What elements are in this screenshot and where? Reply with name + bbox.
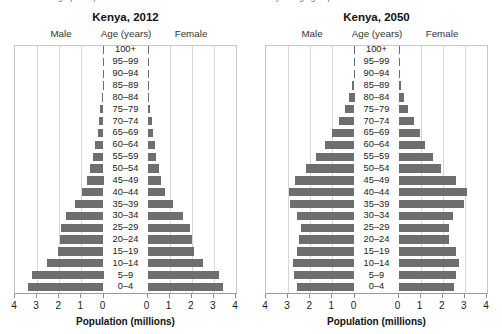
male-bar (290, 200, 355, 208)
female-bar (148, 129, 154, 137)
axis-tick-label: 1 (323, 300, 339, 311)
age-group-label: 30–34 (15, 210, 236, 221)
male-bar (349, 93, 355, 101)
x-axis-title: Population (millions) (0, 316, 251, 327)
female-bar (148, 58, 149, 66)
chart-panel-kenya-2012: Kenya, 2012 Male Age (years) Female 0–45… (0, 9, 251, 334)
pyramid-row: 10–14 (266, 257, 487, 269)
female-bar (399, 188, 467, 196)
female-bar (148, 200, 173, 208)
pyramid-row: 25–29 (266, 222, 487, 234)
female-bar (399, 247, 456, 255)
axis-tick-label: 3 (205, 300, 221, 311)
female-bar (399, 105, 409, 113)
male-bar (325, 141, 355, 149)
bar-rows: 0–45–910–1415–1920–2425–2930–3435–3940–4… (266, 46, 487, 293)
pyramid-row: 90–94 (15, 68, 236, 80)
pyramid-row: 20–24 (15, 234, 236, 246)
male-bar (345, 105, 355, 113)
female-bar (148, 46, 149, 54)
pyramid-row: 55–59 (15, 151, 236, 163)
age-group-label: 55–59 (15, 151, 236, 162)
axis-tick-label: 1 (72, 300, 88, 311)
pyramid-row: 0–4 (266, 281, 487, 293)
pyramid-row: 35–39 (15, 198, 236, 210)
male-bar (103, 46, 104, 54)
male-bar (103, 70, 104, 78)
female-bar (399, 46, 400, 54)
axis-tick-label: 3 (28, 300, 44, 311)
female-bar (148, 81, 149, 89)
bar-rows: 0–45–910–1415–1920–2425–2930–3435–3940–4… (15, 46, 236, 293)
pyramid-row: 50–54 (266, 163, 487, 175)
age-group-label: 40–44 (15, 187, 236, 198)
age-group-label: 70–74 (266, 116, 487, 127)
pyramid-row: 80–84 (266, 92, 487, 104)
male-bar (354, 70, 355, 78)
age-group-label: 75–79 (266, 104, 487, 115)
axis-tick (191, 294, 192, 298)
male-bar (99, 117, 103, 125)
male-bar (352, 81, 354, 89)
male-bar (297, 283, 355, 291)
pyramid-row: 5–9 (266, 269, 487, 281)
x-axis-title: Population (millions) (251, 316, 502, 327)
axis-tick (235, 294, 236, 298)
female-column-header: Female (403, 28, 481, 39)
female-bar (399, 164, 441, 172)
age-group-label: 55–59 (266, 151, 487, 162)
axis-tick-label: 0 (95, 300, 111, 311)
female-bar (148, 224, 190, 232)
pyramid-row: 90–94 (266, 68, 487, 80)
male-bar (82, 188, 103, 196)
age-group-label: 60–64 (15, 139, 236, 150)
pyramid-row: 100+ (266, 44, 487, 56)
female-bar (399, 212, 454, 220)
axis-tick (287, 294, 288, 298)
female-column-header: Female (152, 28, 230, 39)
axis-tick (14, 294, 15, 298)
axis-tick-label: 0 (346, 300, 362, 311)
female-bar (399, 81, 402, 89)
axis-tick-label: 1 (161, 300, 177, 311)
age-group-label: 75–79 (15, 104, 236, 115)
axis-tick-label: 1 (412, 300, 428, 311)
male-bar (339, 117, 354, 125)
age-group-label: 50–54 (15, 163, 236, 174)
female-bar (148, 259, 203, 267)
age-group-label: 80–84 (266, 92, 487, 103)
panel-title: Kenya, 2050 (251, 11, 502, 23)
axis-tick (486, 294, 487, 298)
female-bar (399, 259, 459, 267)
pyramid-row: 25–29 (15, 222, 236, 234)
age-group-label: 100+ (266, 44, 487, 55)
male-bar (58, 247, 103, 255)
age-group-label: 25–29 (15, 222, 236, 233)
male-bar (332, 129, 355, 137)
axis-tick (80, 294, 81, 298)
female-bar (399, 129, 420, 137)
male-bar (102, 93, 104, 101)
pyramid-row: 70–74 (266, 115, 487, 127)
female-bar (399, 200, 465, 208)
male-bar (32, 271, 104, 279)
axis-tick (398, 294, 399, 298)
female-bar (399, 153, 434, 161)
male-bar (301, 224, 355, 232)
axis-tick (147, 294, 148, 298)
axis-tick (103, 294, 104, 298)
pyramid-row: 50–54 (15, 163, 236, 175)
plot-area: 0–45–910–1415–1920–2425–2930–3435–3940–4… (14, 45, 237, 294)
age-group-label: 90–94 (266, 68, 487, 79)
axis-tick (354, 294, 355, 298)
female-bar (399, 70, 400, 78)
axis-tick (309, 294, 310, 298)
pyramid-row: 45–49 (266, 175, 487, 187)
male-bar (297, 212, 355, 220)
female-bar (399, 224, 449, 232)
axis-tick-label: 3 (279, 300, 295, 311)
age-group-label: 95–99 (15, 56, 236, 67)
pyramid-row: 0–4 (15, 281, 236, 293)
female-bar (148, 271, 220, 279)
pyramid-row: 15–19 (15, 246, 236, 258)
